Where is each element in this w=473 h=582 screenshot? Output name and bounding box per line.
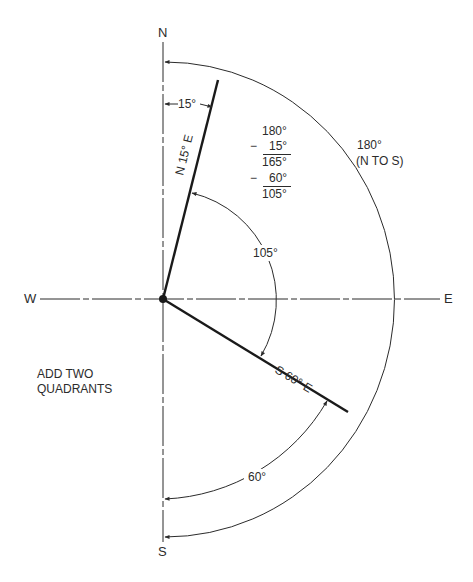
calc-line-4: 60°: [269, 171, 287, 185]
angle-label-180: 180°: [357, 138, 382, 152]
bearing-label-s60e: S 60° E: [272, 363, 314, 396]
compass-north: N: [158, 26, 167, 40]
dim-15-right-arrow: [200, 104, 212, 107]
calc-op-4: −: [250, 171, 257, 185]
note-line-2: QUADRANTS: [37, 382, 112, 396]
origin-point: [159, 295, 167, 303]
compass-south: S: [158, 545, 167, 559]
calc-line-2: 15°: [269, 139, 287, 153]
note-line-1: ADD TWO: [37, 367, 93, 381]
bearing-line-n15e: [163, 80, 218, 299]
calc-line-1: 180°: [262, 124, 287, 138]
calc-line-3: 165°: [262, 155, 287, 169]
calc-op-2: −: [250, 139, 257, 153]
angle-label-60: 60°: [248, 470, 266, 484]
bearing-diagram: N 15° E S 60° E: [0, 0, 473, 582]
angle-label-n-to-s: (N TO S): [356, 154, 404, 168]
bearing-line-s60e: [163, 299, 348, 412]
bearing-label-n15e: N 15° E: [172, 133, 196, 177]
angle-label-15: 15°: [178, 97, 196, 111]
arc-105: [192, 193, 276, 356]
calc-line-5: 105°: [262, 187, 287, 201]
compass-west: W: [24, 292, 36, 306]
compass-east: E: [444, 292, 453, 306]
angle-label-105: 105°: [253, 246, 278, 260]
